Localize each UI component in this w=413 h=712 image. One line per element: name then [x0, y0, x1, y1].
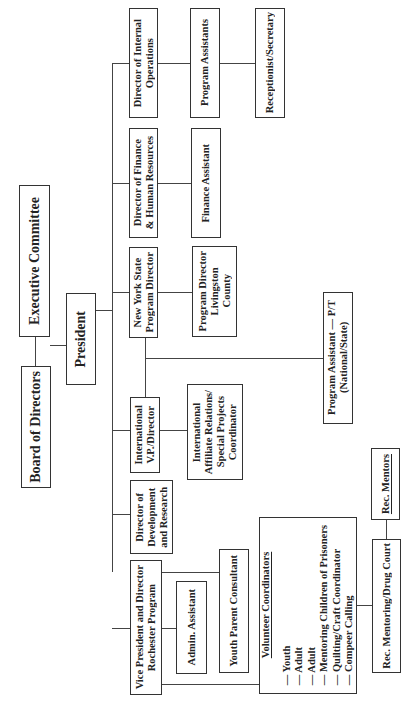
node-label: Rec. Mentors: [380, 454, 392, 514]
president-spine-line: [96, 310, 113, 311]
node-program-assistant-pt: Program Assistant — P/T (National/State): [323, 292, 353, 424]
node-international-vp-director: International V.P./Director: [130, 397, 160, 473]
node-director-internal-operations: Director of Internal Operations: [129, 8, 158, 118]
node-label: Program Assistant — P/T (National/State): [326, 300, 350, 415]
node-receptionist-secretary: Receptionist/Secretary: [255, 8, 285, 118]
nys-intl-link-line: [145, 338, 146, 397]
node-label: President: [73, 311, 89, 368]
nys-livingston-line: [158, 292, 192, 293]
volunteer-item-adult-2: — Adult: [306, 525, 319, 685]
node-label: Youth Parent Consultant: [228, 555, 240, 667]
node-director-development-research: Director of Development and Research: [130, 480, 173, 554]
node-label: Admin. Assistant: [186, 589, 198, 665]
volunteer-item-adult-1: — Adult: [293, 525, 306, 685]
node-president: President: [66, 293, 96, 385]
node-label: Receptionist/Secretary: [264, 12, 276, 113]
board-exec-line: [35, 337, 36, 366]
node-intl-affiliate-coordinator: International Affiliate Relations/ Speci…: [187, 384, 243, 480]
intl-affiliate-line: [160, 430, 187, 431]
node-label: New York State Program Director: [132, 252, 156, 332]
recmentoring-recmentors-line: [386, 520, 387, 539]
vp-volunteer-line: [162, 684, 259, 685]
node-label: Director of Internal Operations: [132, 19, 156, 107]
node-nys-program-director: New York State Program Director: [129, 247, 158, 338]
finance-assistant-line: [158, 183, 191, 184]
assistants-receptionist-line: [220, 63, 255, 64]
node-label: Director of Development and Research: [134, 487, 170, 548]
vp-youthparent-line: [162, 572, 219, 573]
node-label: Director of Finance & Human Resources: [132, 136, 156, 229]
node-label: Rec. Mentoring/Drug Court: [381, 543, 393, 669]
volunteer-recmentoring-line: [357, 605, 372, 606]
main-spine-line: [112, 63, 113, 572]
internal-ops-assistants-line: [158, 63, 190, 64]
node-youth-parent-consultant: Youth Parent Consultant: [219, 549, 249, 673]
spine-dev-line: [112, 514, 130, 515]
spine-finance-line: [112, 183, 130, 184]
board-president-line: [50, 345, 66, 346]
spine-internal-ops-line: [112, 63, 130, 64]
node-rec-mentoring-drug-court: Rec. Mentoring/Drug Court: [372, 539, 401, 673]
spine-intl-line: [112, 430, 130, 431]
node-label: Vice President and Director Rochester Pr…: [134, 565, 158, 689]
node-vp-rochester-program: Vice President and Director Rochester Pr…: [130, 560, 162, 695]
node-label: Board of Directors: [28, 371, 44, 483]
volunteer-item-compeer: — Compeer Calling: [343, 525, 356, 685]
volunteer-item-quilting: — Quilting/Craft Coordinator: [331, 525, 344, 685]
volunteer-item-youth: — Youth: [281, 525, 294, 685]
node-rec-mentors: Rec. Mentors: [371, 448, 400, 520]
node-label: Program Director Livingston County: [197, 251, 233, 331]
node-program-assistants: Program Assistants: [190, 8, 220, 118]
spine-vp-line: [112, 628, 130, 629]
node-volunteer-coordinators: Volunteer Coordinators — Youth — Adult —…: [259, 517, 357, 694]
node-admin-assistant: Admin. Assistant: [176, 581, 207, 674]
node-board-of-directors: Board of Directors: [21, 366, 51, 488]
spine-nys-line: [112, 292, 130, 293]
volunteer-coordinators-title: Volunteer Coordinators: [260, 525, 273, 685]
node-executive-committee: Executive Committee: [19, 185, 50, 337]
node-label: Executive Committee: [27, 197, 43, 325]
node-label: International V.P./Director: [133, 405, 157, 465]
node-label: International Affiliate Relations/ Speci…: [191, 390, 239, 474]
node-finance-assistant: Finance Assistant: [191, 128, 221, 238]
node-label: Program Assistants: [199, 19, 211, 106]
node-director-finance-hr: Director of Finance & Human Resources: [129, 128, 158, 238]
volunteer-coordinators-content: Volunteer Coordinators — Youth — Adult —…: [260, 525, 356, 685]
vp-admin-line: [162, 628, 176, 629]
pt-branch-line: [145, 358, 323, 359]
node-program-director-livingston: Program Director Livingston County: [192, 246, 237, 337]
volunteer-item-mentoring-children: — Mentoring Children of Prisoners: [318, 525, 331, 685]
node-label: Finance Assistant: [200, 144, 212, 222]
